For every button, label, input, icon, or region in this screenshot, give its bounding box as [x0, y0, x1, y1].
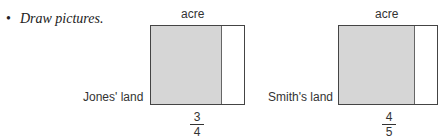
bullet-text: Draw pictures.: [20, 11, 103, 26]
jones-land-rectangle: [150, 25, 245, 105]
smith-denominator: 5: [382, 125, 396, 138]
bullet-marker: •: [6, 11, 11, 26]
smith-numerator: 4: [382, 111, 396, 125]
jones-numerator: 3: [190, 111, 204, 125]
smith-top-label: acre: [375, 7, 398, 21]
smith-shaded-region: [339, 26, 415, 104]
smith-land-rectangle: [338, 25, 438, 105]
smith-fraction: 4 5: [382, 111, 396, 138]
jones-denominator: 4: [190, 125, 204, 138]
jones-fraction: 3 4: [190, 111, 204, 138]
jones-side-label: Jones' land: [83, 90, 143, 104]
jones-shaded-region: [151, 26, 222, 104]
bullet-item: •Draw pictures.: [6, 11, 103, 27]
jones-top-label: acre: [181, 7, 204, 21]
smith-side-label: Smith's land: [268, 90, 333, 104]
